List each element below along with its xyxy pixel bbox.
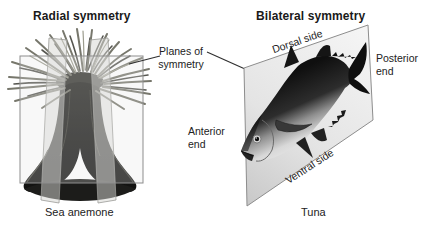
eye-pupil bbox=[255, 137, 259, 141]
planes-label-line1: Planes of bbox=[159, 45, 203, 57]
posterior-end-label: Posterior end bbox=[376, 52, 418, 77]
right-panel-title: Bilateral symmetry bbox=[256, 9, 365, 23]
radial-plane-frontal bbox=[20, 56, 143, 183]
planes-label-line2: symmetry bbox=[158, 58, 204, 70]
eye-glint bbox=[256, 137, 257, 138]
diagram-artwork bbox=[0, 0, 431, 236]
sea-anemone-illustration bbox=[8, 29, 151, 203]
tuna-caption: Tuna bbox=[301, 206, 326, 219]
left-panel-title: Radial symmetry bbox=[33, 9, 131, 23]
anterior-label-line2: end bbox=[188, 138, 206, 150]
posterior-label-line2: end bbox=[376, 65, 394, 77]
posterior-label-line1: Posterior bbox=[376, 52, 418, 64]
planes-of-symmetry-label: Planes of symmetry bbox=[150, 45, 212, 70]
bilateral-illustration bbox=[241, 25, 373, 206]
symmetry-diagram: Radial symmetry Bilateral symmetry Plane… bbox=[0, 0, 431, 236]
sea-anemone-caption: Sea anemone bbox=[45, 206, 114, 219]
anterior-label-line1: Anterior bbox=[188, 125, 225, 137]
pointer-line-right bbox=[207, 52, 245, 69]
anterior-end-label: Anterior end bbox=[188, 125, 225, 150]
